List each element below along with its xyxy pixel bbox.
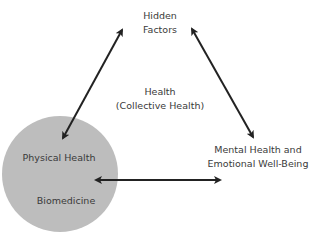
- physical-health-label: Physical Health: [14, 151, 104, 165]
- center-health-label: Health (Collective Health): [100, 85, 220, 113]
- arrow-hidden-to-mental: [192, 29, 253, 137]
- arrow-hidden-to-physical: [63, 30, 122, 138]
- arrows-layer: [0, 0, 327, 249]
- center-line1: Health: [100, 85, 220, 99]
- center-line2: (Collective Health): [100, 99, 220, 113]
- hidden-factors-line2: Factors: [128, 23, 192, 37]
- hidden-factors-label: Hidden Factors: [128, 9, 192, 37]
- hidden-factors-line1: Hidden: [128, 9, 192, 23]
- biomedicine-label: Biomedicine: [28, 194, 104, 208]
- mental-line2: Emotional Well-Being: [192, 157, 324, 171]
- mental-health-label: Mental Health and Emotional Well-Being: [192, 143, 324, 171]
- mental-line1: Mental Health and: [192, 143, 324, 157]
